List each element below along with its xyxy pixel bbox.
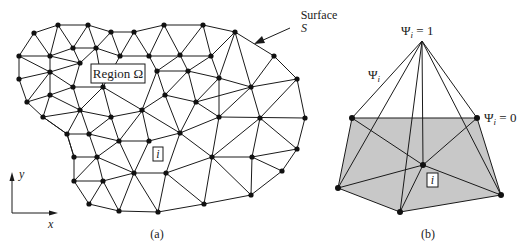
surface-s-label: Surface S xyxy=(254,8,337,44)
apex-label: Ψi = 1 xyxy=(401,23,433,40)
panel-a-mesh: Region Ω i Surface S y x (a) xyxy=(10,8,338,241)
svg-text:y: y xyxy=(18,167,25,181)
svg-text:i: i xyxy=(156,147,159,161)
y-axis-arrow-icon xyxy=(10,172,15,181)
corner-label: Ψi = 0 xyxy=(484,110,516,127)
svg-text:i: i xyxy=(431,173,434,187)
shaded-element-patch xyxy=(338,118,501,212)
x-axis-arrow-icon xyxy=(49,211,58,216)
panel-b-shape-function: i Ψi = 1 Ψi Ψi = 0 (b) xyxy=(335,23,516,241)
region-label-text: Region Ω xyxy=(93,66,143,81)
shape-function-label: Ψi xyxy=(368,67,381,84)
finite-element-mesh-figure: Region Ω i Surface S y x (a) xyxy=(0,0,522,245)
region-omega-label: Region Ω xyxy=(91,64,145,83)
xy-axes: y x xyxy=(10,167,59,231)
mesh-nodes xyxy=(16,22,307,214)
node-i-label-a: i xyxy=(153,147,163,161)
svg-text:Surface: Surface xyxy=(301,8,338,22)
panel-b-caption: (b) xyxy=(421,227,435,241)
node-i-label-b: i xyxy=(427,173,438,187)
svg-text:x: x xyxy=(47,217,54,231)
panel-a-caption: (a) xyxy=(150,227,163,241)
surface-arrow-head-icon xyxy=(254,36,265,44)
svg-text:S: S xyxy=(301,21,307,35)
surface-arrow-line xyxy=(261,28,290,41)
